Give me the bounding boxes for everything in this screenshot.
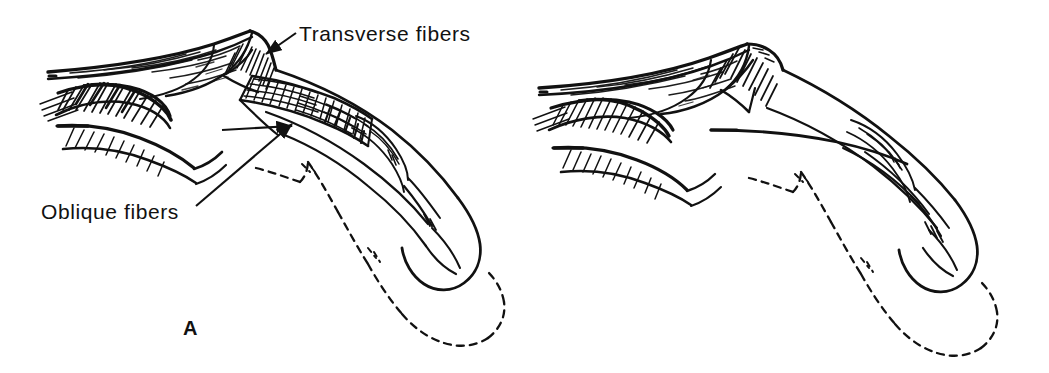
- panel-a: Transverse fibers Oblique fibers A: [0, 0, 524, 373]
- panel-b: B: [525, 0, 1049, 373]
- oblique-fibers-label: Oblique fibers: [41, 201, 179, 222]
- transverse-fibers-leader: [266, 33, 296, 54]
- panel-a-annotations: [0, 0, 524, 373]
- anatomical-figure: Transverse fibers Oblique fibers A: [0, 0, 1049, 373]
- panel-letter-a: A: [183, 318, 197, 338]
- panel-b-drawing: [525, 0, 1049, 373]
- transverse-fibers-label: Transverse fibers: [299, 23, 471, 44]
- oblique-fibers-leader-secondary: [222, 126, 292, 130]
- oblique-fibers-leader: [196, 124, 292, 206]
